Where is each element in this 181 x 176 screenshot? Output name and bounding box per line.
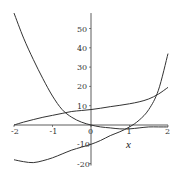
y-tick-label: 50: [77, 25, 87, 34]
y-tick-label: 40: [77, 44, 87, 53]
chart: -2-1012-20-101020304050 x: [0, 0, 181, 176]
x-tick-label: -2: [11, 127, 19, 136]
x-axis-label: x: [125, 138, 131, 150]
x-tick-label: 2: [165, 127, 170, 136]
y-tick-label: -20: [77, 160, 90, 169]
x-tick-label: -1: [50, 127, 58, 136]
y-tick-label: 20: [77, 82, 87, 91]
y-tick-label: 10: [77, 102, 87, 111]
x-tick-label: 0: [88, 127, 93, 136]
axes: [14, 13, 168, 165]
y-tick-label: 30: [77, 63, 87, 72]
tick-labels: -2-1012-20-101020304050: [11, 25, 170, 169]
